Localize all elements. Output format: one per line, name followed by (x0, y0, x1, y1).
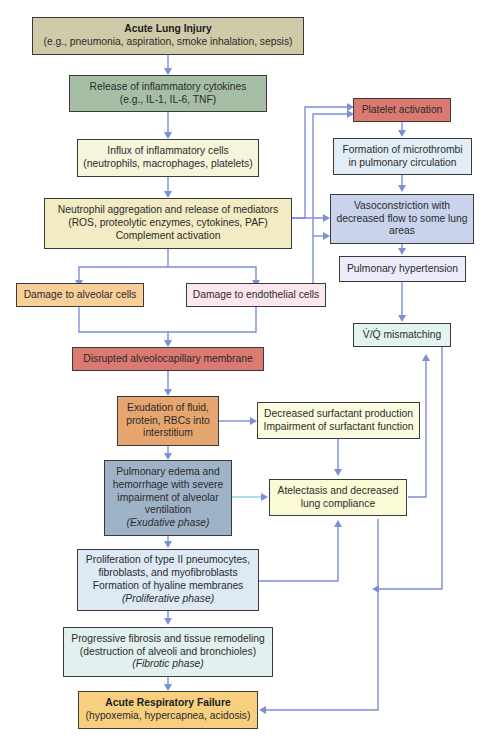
node-vasoconstriction: Vasoconstriction with decreased flow to … (330, 194, 474, 244)
node-vq-mismatching: V̇/Q̇ mismatching (353, 323, 451, 347)
disrupted-membrane-label: Disrupted alveolocapillary membrane (83, 353, 252, 366)
proliferation-line1: Proliferation of type II pneumocytes, (86, 554, 250, 567)
exudation-line3: interstitium (143, 427, 193, 440)
acute-lung-injury-detail: (e.g., pneumonia, aspiration, smoke inha… (44, 36, 293, 49)
node-proliferation: Proliferation of type II pneumocytes, fi… (77, 549, 259, 611)
node-influx-inflammatory-cells: Influx of inflammatory cells (neutrophil… (77, 139, 259, 177)
influx-line1: Influx of inflammatory cells (107, 145, 228, 158)
vasoconstriction-line3: areas (389, 225, 415, 238)
node-acute-lung-injury: Acute Lung Injury (e.g., pneumonia, aspi… (32, 17, 304, 55)
node-microthrombi: Formation of microthrombi in pulmonary c… (333, 138, 472, 175)
proliferation-line2: fibroblasts, and myofibroblasts (98, 567, 237, 580)
platelet-label: Platelet activation (362, 104, 443, 117)
endothelial-damage-label: Damage to endothelial cells (193, 289, 320, 302)
edema-phase: (Exudative phase) (127, 517, 210, 530)
microthrombi-line1: Formation of microthrombi (342, 144, 462, 157)
pulmonary-hypertension-label: Pulmonary hypertension (347, 263, 458, 276)
node-pulmonary-hypertension: Pulmonary hypertension (339, 256, 466, 282)
respiratory-failure-detail: (hypoxemia, hypercapnea, acidosis) (86, 710, 251, 723)
node-platelet-activation: Platelet activation (353, 98, 451, 122)
node-exudation: Exudation of fluid, protein, RBCs into i… (117, 396, 219, 446)
node-atelectasis: Atelectasis and decreased lung complianc… (269, 479, 407, 516)
surfactant-line1: Decreased surfactant production (264, 408, 413, 421)
vasoconstriction-line2: decreased flow to some lung (336, 213, 467, 226)
proliferation-phase: (Proliferative phase) (122, 593, 214, 606)
neutrophil-line1: Neutrophil aggregation and release of me… (58, 204, 278, 217)
node-fibrosis: Progressive fibrosis and tissue remodeli… (63, 627, 273, 677)
neutrophil-line2: (ROS, proteolytic enzymes, cytokines, PA… (68, 217, 268, 230)
microthrombi-line2: in pulmonary circulation (348, 157, 456, 170)
node-endothelial-damage: Damage to endothelial cells (186, 283, 326, 307)
atelectasis-line2: lung compliance (301, 498, 375, 511)
neutrophil-line3: Complement activation (116, 230, 221, 243)
proliferation-line3: Formation of hyaline membranes (93, 580, 244, 593)
node-alveolar-damage: Damage to alveolar cells (16, 283, 144, 307)
acute-lung-injury-title: Acute Lung Injury (124, 23, 212, 36)
edema-line4: ventilation (145, 504, 191, 517)
edema-line2: hemorrhage with severe (113, 479, 223, 492)
fibrosis-line1: Progressive fibrosis and tissue remodeli… (71, 633, 264, 646)
exudation-line2: protein, RBCs into (126, 415, 210, 428)
edema-line1: Pulmonary edema and (116, 466, 220, 479)
atelectasis-line1: Atelectasis and decreased (278, 485, 399, 498)
cytokines-line2: (e.g., IL-1, IL-6, TNF) (120, 94, 217, 107)
respiratory-failure-title: Acute Respiratory Failure (105, 697, 230, 710)
vasoconstriction-line1: Vasoconstriction with (354, 200, 450, 213)
surfactant-line2: Impairment of surfactant function (264, 421, 414, 434)
ards-flowchart: Acute Lung Injury (e.g., pneumonia, aspi… (0, 0, 487, 736)
alveolar-damage-label: Damage to alveolar cells (24, 289, 137, 302)
exudation-line1: Exudation of fluid, (127, 402, 209, 415)
node-disrupted-membrane: Disrupted alveolocapillary membrane (72, 347, 264, 371)
node-cytokines: Release of inflammatory cytokines (e.g.,… (69, 75, 267, 112)
fibrosis-line2: (destruction of alveoli and bronchioles) (80, 646, 256, 659)
edema-line3: impairment of alveolar (117, 492, 218, 505)
node-pulmonary-edema: Pulmonary edema and hemorrhage with seve… (104, 460, 232, 536)
vq-mismatch-label: V̇/Q̇ mismatching (363, 329, 441, 342)
cytokines-line1: Release of inflammatory cytokines (90, 81, 247, 94)
node-surfactant: Decreased surfactant production Impairme… (257, 402, 420, 439)
fibrosis-phase: (Fibrotic phase) (132, 658, 204, 671)
node-acute-respiratory-failure: Acute Respiratory Failure (hypoxemia, hy… (78, 691, 258, 729)
influx-line2: (neutrophils, macrophages, platelets) (83, 158, 252, 171)
node-neutrophil-aggregation: Neutrophil aggregation and release of me… (44, 198, 292, 249)
